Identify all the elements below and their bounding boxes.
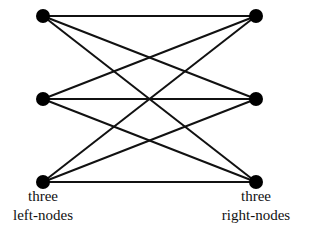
left-label-line1: three bbox=[2, 187, 84, 206]
node-R1 bbox=[249, 9, 263, 23]
right-nodes-label: three right-nodes bbox=[210, 187, 302, 225]
node-L1 bbox=[36, 9, 50, 23]
left-nodes-label: three left-nodes bbox=[2, 187, 84, 225]
node-L2 bbox=[36, 92, 50, 106]
edges bbox=[43, 16, 256, 182]
node-R2 bbox=[249, 92, 263, 106]
right-label-line1: three bbox=[210, 187, 302, 206]
right-label-line2: right-nodes bbox=[210, 206, 302, 225]
left-label-line2: left-nodes bbox=[2, 206, 84, 225]
